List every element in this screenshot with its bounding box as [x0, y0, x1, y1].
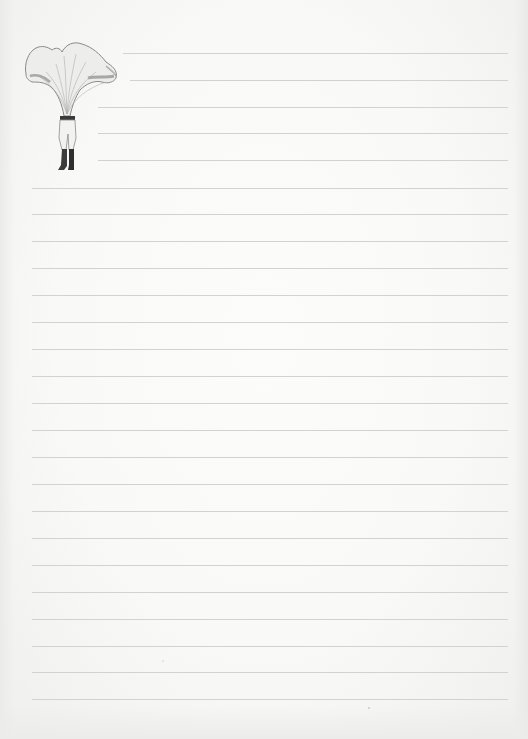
writing-line — [32, 565, 508, 566]
paper-edge-left — [0, 0, 14, 739]
writing-line — [32, 322, 508, 323]
writing-line — [32, 376, 508, 377]
writing-line — [32, 672, 508, 673]
trousers-icon — [59, 120, 76, 150]
writing-line — [98, 107, 508, 108]
belt-icon — [60, 116, 75, 120]
writing-line — [32, 538, 508, 539]
writing-line — [32, 646, 508, 647]
writing-line — [32, 268, 508, 269]
writing-line — [32, 484, 508, 485]
mushroom-figure-illustration — [22, 38, 120, 174]
lined-paper — [0, 0, 528, 739]
writing-line — [32, 241, 508, 242]
writing-line — [130, 80, 508, 81]
mushroom-cap-icon — [25, 43, 116, 116]
writing-line — [32, 457, 508, 458]
writing-line — [32, 349, 508, 350]
writing-line — [123, 53, 508, 54]
writing-line — [98, 160, 508, 161]
paper-speck — [162, 660, 164, 662]
writing-line — [32, 214, 508, 215]
writing-line — [32, 403, 508, 404]
writing-line — [32, 430, 508, 431]
writing-line — [32, 295, 508, 296]
writing-line — [98, 133, 508, 134]
writing-line — [32, 511, 508, 512]
writing-line — [32, 619, 508, 620]
paper-edge-bottom — [0, 705, 528, 739]
paper-edge-right — [514, 0, 528, 739]
writing-line — [32, 188, 508, 189]
paper-speck — [368, 707, 370, 709]
writing-line — [32, 592, 508, 593]
boot-right-icon — [68, 149, 74, 170]
writing-line — [32, 699, 508, 700]
boot-left-icon — [58, 149, 67, 170]
